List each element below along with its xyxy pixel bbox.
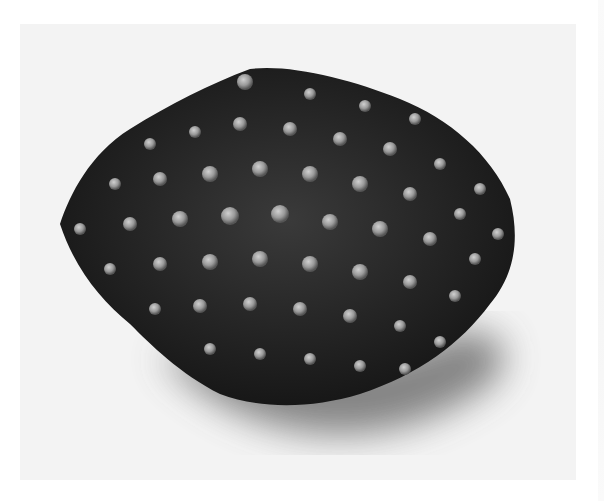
product-photo bbox=[20, 24, 576, 480]
brooch-illustration bbox=[20, 24, 576, 480]
right-edge bbox=[598, 0, 604, 501]
